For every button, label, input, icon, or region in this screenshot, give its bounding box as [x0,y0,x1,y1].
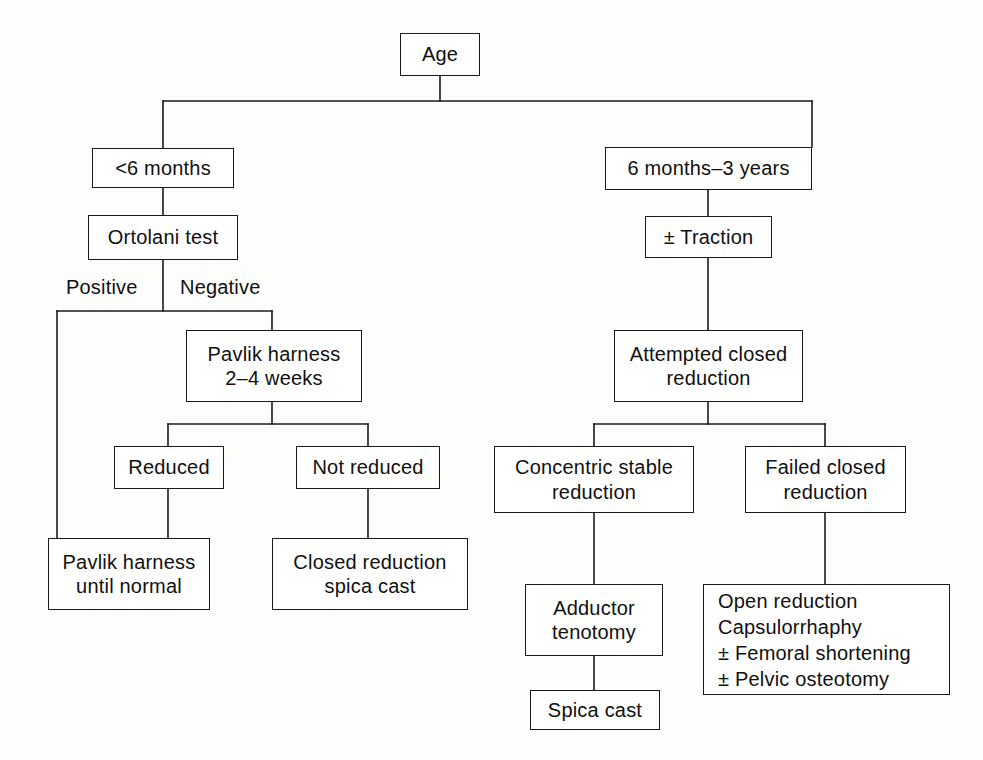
node-closed-reduction-spica-cast[interactable]: Closed reduction spica cast [272,538,468,610]
node-failed-closed-reduction[interactable]: Failed closed reduction [745,446,906,513]
node-concentric-stable-reduction[interactable]: Concentric stable reduction [494,446,694,513]
node-adductor-tenotomy[interactable]: Adductor tenotomy [525,584,663,656]
node-attempted-closed-reduction[interactable]: Attempted closed reduction [614,330,803,402]
node-age[interactable]: Age [400,33,480,76]
node-under-6-months[interactable]: <6 months [92,148,234,188]
node-open-reduction-block[interactable]: Open reduction Capsulorrhaphy ± Femoral … [703,584,950,695]
flowchart-canvas: Age <6 months Ortolani test Pavlik harne… [0,0,983,760]
node-pavlik-harness-until-normal[interactable]: Pavlik harness until normal [48,538,210,610]
node-not-reduced[interactable]: Not reduced [296,446,440,489]
edge-label-negative: Negative [180,276,261,299]
node-6-months-3-years[interactable]: 6 months–3 years [605,147,812,190]
node-traction[interactable]: ± Traction [645,216,772,258]
node-ortolani-test[interactable]: Ortolani test [88,215,238,260]
node-reduced[interactable]: Reduced [114,446,224,489]
node-spica-cast[interactable]: Spica cast [530,690,660,730]
edge-label-positive: Positive [66,276,138,299]
node-pavlik-harness-2-4-weeks[interactable]: Pavlik harness 2–4 weeks [186,330,362,402]
